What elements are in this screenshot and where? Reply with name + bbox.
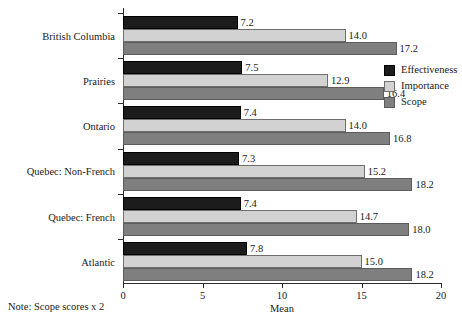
x-axis-tick-label: 5 <box>200 290 205 302</box>
y-axis-tick <box>118 58 123 59</box>
bar-scope <box>123 178 412 191</box>
bar-scope <box>123 42 397 55</box>
y-axis-tick <box>118 149 123 150</box>
bar-value-label: 14.0 <box>346 29 367 42</box>
bar-scope <box>123 268 412 281</box>
legend-item-importance: Importance <box>384 79 457 93</box>
bar-effectiveness <box>123 242 247 255</box>
x-axis-tick <box>123 283 124 288</box>
bar-value-label: 14.7 <box>357 210 378 223</box>
y-axis-tick <box>118 13 123 14</box>
bar-value-label: 7.3 <box>239 152 255 165</box>
bar-importance <box>123 119 346 132</box>
bar-value-label: 7.2 <box>238 16 254 29</box>
bar-importance <box>123 210 357 223</box>
category-axis-labels: British Columbia Prairies Ontario Quebec… <box>0 0 119 283</box>
bar-value-label: 7.8 <box>247 242 263 255</box>
category-label: Quebec: Non-French <box>27 166 115 178</box>
legend-item-scope: Scope <box>384 95 457 109</box>
bar-value-label: 16.8 <box>390 132 411 145</box>
x-axis-title: Mean <box>123 303 441 314</box>
bar-effectiveness <box>123 106 241 119</box>
plot-area: 7.2 14.0 17.2 7.5 12.9 16.4 7.4 14.0 16.… <box>123 8 441 283</box>
bar-value-label: 12.9 <box>328 74 349 87</box>
bar-value-label: 18.2 <box>412 268 433 281</box>
category-label: British Columbia <box>42 31 115 43</box>
legend-item-effectiveness: Effectiveness <box>384 63 457 77</box>
bar-scope <box>123 223 409 236</box>
x-axis-tick <box>362 283 363 288</box>
category-label: Quebec: French <box>48 212 115 224</box>
category-label: Atlantic <box>81 257 115 269</box>
bar-effectiveness <box>123 16 238 29</box>
bar-chart-figure: British Columbia Prairies Ontario Quebec… <box>0 0 462 322</box>
bar-effectiveness <box>123 197 241 210</box>
y-axis-tick <box>118 103 123 104</box>
y-axis-tick <box>118 239 123 240</box>
bar-importance <box>123 29 346 42</box>
x-axis-tick <box>203 283 204 288</box>
x-axis-tick <box>441 283 442 288</box>
bar-value-label: 15.0 <box>362 255 383 268</box>
y-axis-tick <box>118 194 123 195</box>
chart-note: Note: Scope scores x 2 <box>8 301 104 312</box>
bar-effectiveness <box>123 61 242 74</box>
category-label: Ontario <box>83 121 115 133</box>
x-axis-tick <box>282 283 283 288</box>
legend-swatch-icon <box>384 97 395 108</box>
bar-importance <box>123 255 362 268</box>
legend-label: Effectiveness <box>401 64 457 76</box>
bar-value-label: 7.4 <box>241 197 257 210</box>
bar-importance <box>123 165 365 178</box>
bar-importance <box>123 74 328 87</box>
legend-swatch-icon <box>384 81 395 92</box>
category-label: Prairies <box>83 76 115 88</box>
legend-label: Scope <box>401 96 427 108</box>
bar-value-label: 18.2 <box>412 178 433 191</box>
bar-value-label: 7.5 <box>242 61 258 74</box>
bar-scope <box>123 87 384 100</box>
x-axis-tick-label: 0 <box>120 290 125 302</box>
bar-value-label: 14.0 <box>346 119 367 132</box>
legend-swatch-icon <box>384 65 395 76</box>
bar-value-label: 15.2 <box>365 165 386 178</box>
chart-legend: Effectiveness Importance Scope <box>384 63 457 111</box>
x-axis-tick-label: 20 <box>436 290 447 302</box>
bar-effectiveness <box>123 152 239 165</box>
bar-value-label: 18.0 <box>409 223 430 236</box>
bar-value-label: 7.4 <box>241 106 257 119</box>
x-axis-tick-label: 10 <box>277 290 288 302</box>
bar-scope <box>123 132 390 145</box>
legend-label: Importance <box>401 80 449 92</box>
bar-value-label: 17.2 <box>397 42 418 55</box>
x-axis-tick-label: 15 <box>356 290 367 302</box>
